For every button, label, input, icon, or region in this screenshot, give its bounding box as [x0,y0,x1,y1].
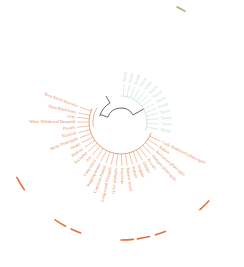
clade-marker-arc [137,236,149,238]
orange-taxon-branch [77,117,89,118]
orange-taxon-branch [88,143,97,151]
tree-branches [77,84,161,166]
green-taxon-label: Taxon [161,121,173,127]
root-arc [108,108,133,117]
orange-taxon-branch [111,153,114,165]
orange-taxon-branch [150,136,161,141]
green-taxon-branch [139,95,147,103]
clade-marker-arc [71,229,81,233]
green-taxon-branch [146,113,158,116]
green-taxon-branch [145,108,156,112]
green-taxon-branch [123,84,124,96]
clade-marker-arc [17,177,25,189]
orange-taxon-label: White Whiskered Dasyurid [29,119,76,124]
green-taxon-label: Taxon [161,115,173,121]
phylogenetic-tree: Rare Aerial AustraliaPlain BlackfriarsGr… [0,0,244,267]
orange-taxon-branch [80,107,91,111]
taxon-labels: Rare Aerial AustraliaPlain BlackfriarsGr… [29,71,206,203]
orange-taxon-branch [143,145,151,154]
orange-clade-arc [89,108,151,154]
orange-taxon-branch [137,150,143,160]
orange-taxon-branch [101,151,106,162]
orange-taxon-branch [96,149,103,159]
orange-taxon-branch [82,137,93,143]
green-taxon-branch [127,85,130,97]
orange-taxon-label: Paucident [120,168,125,185]
orange-taxon-branch [116,154,117,166]
clade-marker-arc [200,201,209,210]
green-taxon-branch [147,119,159,120]
green-taxon-branch [134,89,140,99]
clade-marker-arc [177,7,185,11]
orange-taxon-branch [125,154,127,166]
green-taxon-branch [147,123,159,124]
orange-taxon-branch [106,152,110,163]
green-taxon-branch [147,127,159,129]
green-taxon-label: Taxon [160,127,172,134]
green-taxon-branch [137,92,144,102]
green-taxon-branch [130,87,134,98]
clade-marker-arc [121,239,133,240]
clade-marker-arc [55,220,66,226]
clade-marker-arc [155,231,165,234]
orange-taxon-branch [148,139,158,146]
green-taxon-branch [142,99,152,106]
orange-taxon-branch [78,130,90,133]
orange-taxon-branch [140,148,147,158]
orange-taxon-branch [146,143,155,151]
green-taxon-branch [144,104,154,110]
orange-taxon-branch [129,153,132,165]
orange-taxon-branch [77,126,89,127]
orange-taxon-branch [80,133,91,137]
orange-taxon-branch [133,152,137,163]
orange-taxon-branch [85,140,95,147]
orange-taxon-branch [78,113,90,115]
orange-taxon-branch [92,146,100,155]
green-clade-arc [121,96,147,131]
